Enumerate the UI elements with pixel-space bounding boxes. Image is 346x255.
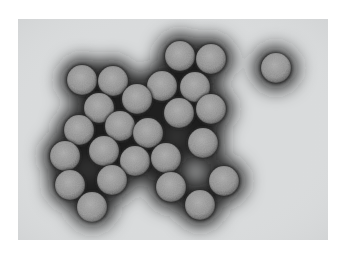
micrograph — [0, 0, 346, 255]
vignette — [18, 19, 328, 240]
virus-micrograph-canvas — [0, 0, 346, 255]
specimen-field — [18, 19, 328, 240]
